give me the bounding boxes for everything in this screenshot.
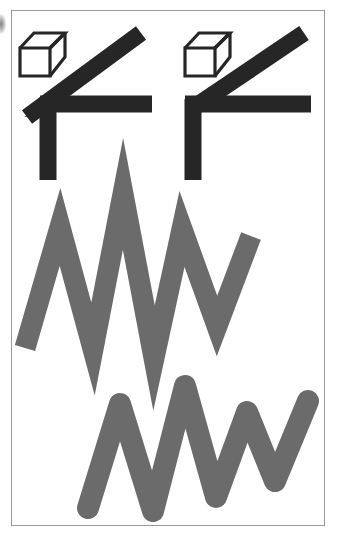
scan-edge-smudge — [0, 14, 6, 34]
figure-frame-border — [11, 10, 325, 526]
figure-page — [0, 0, 337, 537]
